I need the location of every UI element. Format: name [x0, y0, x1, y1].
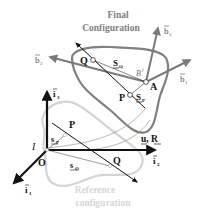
- b3-axis: [146, 28, 158, 82]
- body-B-label: B f: [136, 67, 144, 78]
- reference-material-line: [52, 123, 137, 182]
- svg-text:3: 3: [169, 32, 172, 37]
- point-A-label: A: [150, 81, 158, 92]
- final-config-title-line1: Final: [107, 10, 128, 20]
- point-A-marker: [144, 80, 149, 85]
- point-P-final-marker: [128, 93, 133, 98]
- displacement-label: u, R: [141, 134, 161, 144]
- i2-label: i 2: [153, 156, 160, 167]
- vector-S-Q-label: S Q: [113, 58, 123, 69]
- b2-axis: [50, 57, 146, 82]
- point-Q-reference-marker: [108, 164, 111, 167]
- vector-s-Q: [47, 150, 110, 166]
- kinematics-diagram: Final Configuration b 3 b 2 b 1 Q P A S …: [0, 0, 205, 217]
- svg-text:2: 2: [157, 162, 160, 167]
- b1-label: b 1: [180, 74, 188, 85]
- b2-label: b 2: [35, 55, 43, 66]
- svg-text:1: 1: [185, 80, 188, 85]
- point-Q-final-label: Q: [80, 55, 88, 66]
- svg-text:Q: Q: [119, 64, 123, 69]
- final-config-title-line2: Configuration: [82, 23, 140, 33]
- svg-text:3: 3: [57, 95, 60, 100]
- point-P-reference-label: P: [69, 119, 75, 130]
- svg-text:P: P: [142, 98, 145, 103]
- vector-s-P-label: s P: [51, 135, 59, 145]
- svg-text:B: B: [136, 69, 141, 78]
- svg-text:s: s: [70, 161, 73, 170]
- svg-text:s: s: [51, 135, 54, 144]
- point-P-reference-marker: [63, 133, 66, 136]
- origin-O-label: O: [38, 157, 46, 168]
- point-Q-final-marker: [91, 58, 96, 63]
- svg-text:1: 1: [29, 191, 32, 196]
- b3-label: b 3: [164, 26, 172, 37]
- i3-label: i 3: [53, 89, 60, 100]
- reference-config-title-line2: configuration: [76, 198, 132, 208]
- i1-label: i 1: [25, 185, 32, 196]
- svg-text:2: 2: [40, 61, 43, 66]
- svg-text:S: S: [136, 92, 141, 102]
- point-Q-reference-label: Q: [113, 155, 121, 166]
- vector-s-Q-label: s Q: [70, 161, 79, 171]
- final-material-line: [76, 43, 145, 108]
- point-P-final-label: P: [119, 92, 125, 103]
- vector-S-P-label: S P: [136, 92, 145, 103]
- svg-text:u, R: u, R: [141, 134, 158, 144]
- svg-text:i: i: [53, 89, 56, 99]
- svg-text:f: f: [142, 67, 144, 72]
- origin-O-marker: [45, 148, 48, 151]
- reference-config-title-line1: Reference: [75, 185, 115, 195]
- svg-text:i: i: [153, 156, 156, 166]
- svg-text:S: S: [113, 58, 118, 68]
- svg-text:i: i: [25, 185, 28, 195]
- inertial-frame-label: I: [31, 141, 36, 152]
